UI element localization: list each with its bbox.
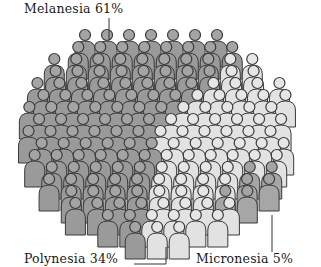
label-polynesia: Polynesia 34% xyxy=(24,251,118,266)
person-icons-group xyxy=(18,30,295,260)
label-micronesia: Micronesia 5% xyxy=(196,251,293,266)
crowd-pie-chart xyxy=(0,0,321,267)
label-melanesia: Melanesia 61% xyxy=(24,1,123,16)
